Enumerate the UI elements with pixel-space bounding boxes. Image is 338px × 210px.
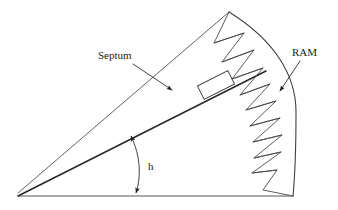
- septum-callout: Septum: [98, 49, 172, 90]
- ram-tooth-bases: [214, 33, 282, 173]
- septum-line: [18, 71, 266, 196]
- septum-label: Septum: [98, 49, 132, 61]
- cone-septum-ram-diagram: h Septum RAM: [0, 0, 338, 210]
- ram-sawtooth-lining: [214, 12, 293, 196]
- septum-group: [18, 71, 266, 196]
- septum-box: [197, 71, 234, 100]
- angle-label: h: [148, 160, 154, 172]
- ram-zigzag-path: [214, 12, 293, 196]
- septum-leader-line: [133, 64, 172, 90]
- angle-indicator-group: h: [131, 136, 154, 193]
- ram-leader-line: [280, 61, 300, 91]
- cone-outline: [18, 12, 296, 196]
- cone-upper-edge: [18, 12, 229, 193]
- ram-label: RAM: [292, 46, 317, 58]
- septum-element: [197, 71, 234, 100]
- diagram-canvas: h Septum RAM: [0, 0, 338, 210]
- angle-arc: [131, 136, 139, 193]
